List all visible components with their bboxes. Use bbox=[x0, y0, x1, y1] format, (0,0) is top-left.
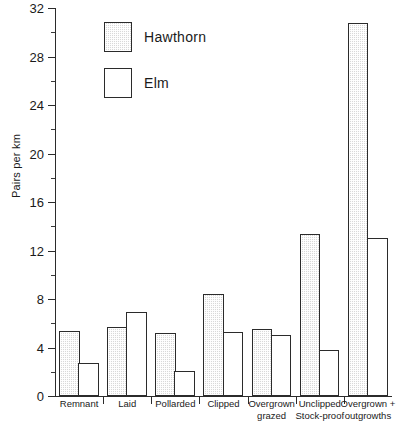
y-tick-minor bbox=[51, 275, 55, 276]
bar-elm bbox=[271, 335, 292, 396]
y-tick-label: 8 bbox=[37, 291, 44, 308]
bar-hawthorn bbox=[107, 327, 128, 396]
y-tick-major: 8 bbox=[48, 299, 55, 300]
y-tick-major: 28 bbox=[48, 57, 55, 58]
y-tick-label: 4 bbox=[37, 340, 44, 357]
x-category-label-line1: Overgrown + bbox=[338, 398, 396, 410]
y-tick-major: 32 bbox=[48, 8, 55, 9]
y-tick-major: 16 bbox=[48, 202, 55, 203]
y-tick-minor bbox=[51, 129, 55, 130]
bar-hawthorn bbox=[252, 329, 273, 396]
y-tick-major: 4 bbox=[48, 348, 55, 349]
y-tick-minor bbox=[51, 178, 55, 179]
x-category-label: Overgrown +outgrowths bbox=[338, 398, 396, 421]
bar-hawthorn bbox=[348, 23, 369, 396]
y-tick-major: 12 bbox=[48, 251, 55, 252]
bar-chart: Pairs per km 048121620242832 RemnantLaid… bbox=[0, 0, 396, 445]
y-tick-minor bbox=[51, 323, 55, 324]
y-axis-line bbox=[55, 8, 56, 397]
y-tick-label: 20 bbox=[30, 146, 44, 163]
y-tick-minor bbox=[51, 226, 55, 227]
y-tick-label: 12 bbox=[30, 243, 44, 260]
y-tick-minor bbox=[51, 372, 55, 373]
legend-swatch-hawthorn-icon bbox=[104, 22, 132, 52]
bar-elm bbox=[174, 371, 195, 396]
bar-hawthorn bbox=[59, 331, 80, 396]
y-tick-minor bbox=[51, 81, 55, 82]
x-category-label-line2: outgrowths bbox=[338, 410, 396, 422]
legend-swatch-elm-icon bbox=[104, 68, 132, 98]
legend-label-elm: Elm bbox=[144, 75, 169, 91]
y-tick-major: 20 bbox=[48, 154, 55, 155]
bar-hawthorn bbox=[155, 333, 176, 396]
bar-elm bbox=[319, 350, 340, 396]
bar-elm bbox=[78, 363, 99, 396]
y-tick-label: 28 bbox=[30, 49, 44, 66]
bar-elm bbox=[223, 332, 244, 396]
y-tick-major: 24 bbox=[48, 105, 55, 106]
y-tick-label: 32 bbox=[30, 0, 44, 17]
bar-hawthorn bbox=[300, 234, 321, 396]
x-axis-line bbox=[55, 396, 392, 397]
y-tick-major: 0 bbox=[48, 396, 55, 397]
y-tick-label: 24 bbox=[30, 97, 44, 114]
y-tick-label: 16 bbox=[30, 194, 44, 211]
y-tick-minor bbox=[51, 32, 55, 33]
legend-item-elm: Elm bbox=[104, 66, 274, 100]
y-axis-title: Pairs per km bbox=[10, 96, 22, 236]
legend: Hawthorn Elm bbox=[104, 20, 274, 112]
bar-hawthorn bbox=[203, 294, 224, 396]
bar-elm bbox=[126, 312, 147, 396]
y-tick-label: 0 bbox=[37, 388, 44, 405]
legend-label-hawthorn: Hawthorn bbox=[144, 29, 206, 45]
bar-elm bbox=[367, 238, 388, 396]
legend-item-hawthorn: Hawthorn bbox=[104, 20, 274, 54]
